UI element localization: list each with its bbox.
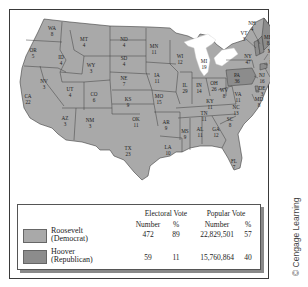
- state-pa: [226, 68, 256, 86]
- pop-number-header: Number: [192, 220, 242, 229]
- electoral-vote-header: Electoral Vote: [134, 209, 198, 218]
- state-ev-tx: 23: [125, 151, 131, 157]
- state-ev-co: 6: [93, 97, 96, 103]
- us-electoral-map: WA8OR5CA22NV3ID4MT4WY3UT4CO6AZ3NM3ND4SD4…: [10, 10, 270, 200]
- state-ev-wy: 3: [90, 68, 93, 74]
- hoover-pop-percent: 40: [236, 253, 260, 262]
- state-ev-mn: 11: [152, 49, 157, 55]
- state-ev-or: 5: [32, 53, 35, 59]
- state-ev-mi: 19: [201, 64, 207, 70]
- state-ev-md: 8: [258, 102, 261, 108]
- hoover-ev-number: 59: [130, 253, 166, 262]
- state-ev-tn: 11: [202, 116, 207, 122]
- roosevelt-party: (Democrat): [51, 235, 88, 244]
- hoover-swatch: [23, 250, 47, 264]
- state-ev-nm: 3: [89, 123, 92, 129]
- state-ev-nj: 16: [259, 78, 265, 84]
- legend-box: Electoral Vote Popular Vote Number % Num…: [17, 204, 261, 270]
- state-ev-ut: 4: [69, 92, 72, 98]
- state-ev-ia: 11: [155, 78, 160, 84]
- state-ev-wa: 8: [51, 31, 54, 37]
- state-ev-mt: 4: [83, 42, 86, 48]
- hoover-pop-number: 15,760,864: [192, 253, 242, 262]
- roosevelt-pop-percent: 57: [236, 230, 260, 239]
- state-ev-la: 10: [165, 150, 171, 156]
- state-ev-id: 4: [60, 60, 63, 66]
- state-ev-ca: 22: [25, 99, 31, 105]
- roosevelt-pop-number: 22,829,501: [192, 230, 242, 239]
- state-ev-nd: 4: [123, 42, 126, 48]
- state-ev-ms: 9: [184, 134, 187, 140]
- state-ev-mo: 15: [156, 99, 162, 105]
- roosevelt-ev-number: 472: [130, 230, 166, 239]
- state-ev-de: 3: [261, 91, 264, 97]
- state-ev-az: 3: [64, 121, 67, 127]
- state-ev-ky: 11: [208, 104, 213, 110]
- state-ev-sc: 8: [229, 122, 232, 128]
- state-ev-ne: 7: [123, 81, 126, 87]
- popular-vote-header: Popular Vote: [194, 209, 258, 218]
- state-ev-me: 8: [267, 40, 270, 46]
- state-ev-nh: 4: [251, 26, 254, 32]
- roosevelt-swatch: [23, 229, 47, 243]
- state-ev-nc: 13: [233, 110, 239, 116]
- state-ev-pa: 36: [234, 78, 240, 84]
- state-ev-wi: 12: [177, 59, 183, 65]
- copyright-credit: © Cengage Learning: [291, 197, 301, 276]
- state-ev-il: 29: [182, 88, 188, 94]
- state-ev-va: 11: [236, 97, 241, 103]
- ev-number-header: Number: [130, 220, 166, 229]
- state-ev-ks: 9: [127, 102, 130, 108]
- ev-percent-header: %: [164, 220, 188, 229]
- state-ev-sd: 4: [123, 61, 126, 67]
- state-ev-ma: 17: [269, 54, 270, 60]
- state-ev-ok: 11: [134, 122, 139, 128]
- state-ev-vt: 3: [243, 36, 246, 42]
- roosevelt-ev-percent: 89: [164, 230, 188, 239]
- state-ev-wv: 8: [223, 93, 226, 99]
- state-ev-al: 11: [198, 132, 203, 138]
- state-ev-fl: 7: [233, 164, 236, 170]
- state-ev-ar: 9: [165, 125, 168, 131]
- state-ev-ny: 47: [245, 59, 251, 65]
- hoover-ev-percent: 11: [164, 253, 188, 262]
- state-ev-ga: 12: [213, 132, 219, 138]
- pop-percent-header: %: [236, 220, 260, 229]
- state-ev-oh: 26: [211, 86, 217, 92]
- hoover-party: (Republican): [51, 256, 93, 265]
- state-ev-in: 14: [196, 88, 202, 94]
- us-landmass: [20, 18, 270, 180]
- state-ev-nv: 3: [43, 84, 46, 90]
